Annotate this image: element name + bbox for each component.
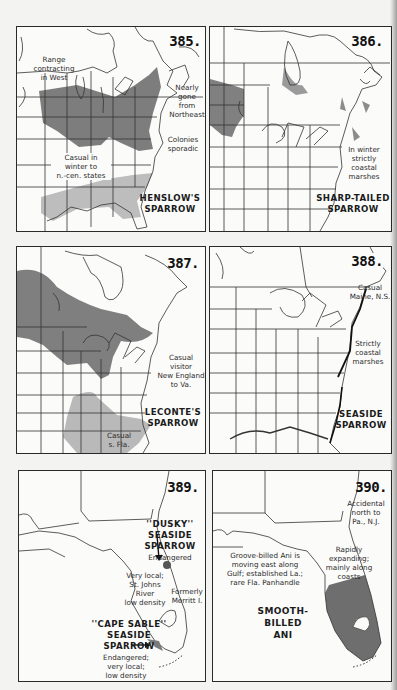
map-number: 387.: [167, 255, 199, 271]
cape-sable-status: Endangered; very local; low density: [99, 653, 153, 680]
species-name: SMOOTH- BILLED ANI: [253, 605, 313, 641]
range-map-386: 386. In winter strictly coastal marshes …: [209, 26, 392, 232]
map-note: Casual s. Fla.: [103, 431, 135, 449]
page-edge-shadow: [390, 0, 397, 690]
map-note: Casual in winter to n.-cen. states: [51, 153, 111, 180]
species-name: SHARP-TAILED SPARROW: [314, 193, 392, 215]
map-note: Formerly Merritt I.: [169, 587, 205, 605]
dusky-status: Endangered: [145, 553, 195, 562]
map-note: Nearly gone from Northeast: [167, 83, 206, 119]
map-note: Colonies sporadic: [161, 135, 205, 153]
map-note: Groove-billed Ani is moving east along G…: [215, 551, 315, 587]
map-number: 388.: [351, 253, 383, 269]
range-map-390: 390. Accidental north to Pa., N.J. Rapid…: [212, 470, 392, 682]
map-number: 389.: [167, 479, 199, 495]
range-map-387: 387. Casual visitor New England to Va. C…: [16, 246, 206, 454]
range-map-389: 389. ''DUSKY'' SEASIDE SPARROW Endangere…: [18, 470, 206, 682]
species-name: LECONTE'S SPARROW: [141, 407, 205, 429]
map-note: In winter strictly coastal marshes: [342, 145, 386, 181]
map-note: Strictly coastal marshes: [346, 339, 390, 366]
cape-sable-seaside-sparrow-label: ''CAPE SABLE'' SEASIDE SPARROW: [91, 619, 167, 652]
species-name: SEASIDE SPARROW: [332, 409, 390, 431]
map-note: Casual Maine, N.S.: [348, 283, 392, 301]
map-note: Rapidly expanding; mainly along coasts: [323, 545, 375, 581]
map-number: 386.: [351, 33, 383, 49]
range-map-388: 388. Casual Maine, N.S. Strictly coastal…: [209, 246, 392, 454]
map-number: 390.: [355, 479, 387, 495]
map-note: Range contracting in West: [31, 55, 77, 82]
species-name: HENSLOW'S SPARROW: [135, 193, 205, 215]
range-map-385: 385. Range contracting in West Nearly go…: [16, 26, 206, 232]
dusky-seaside-sparrow-label: ''DUSKY'' SEASIDE SPARROW: [139, 519, 201, 552]
map-note: Casual visitor New England to Va.: [157, 353, 205, 389]
map-note: Accidental north to Pa., N.J.: [343, 499, 389, 526]
map-note: Very local; St. Johns River low density: [123, 571, 167, 607]
map-number: 385.: [169, 33, 201, 49]
